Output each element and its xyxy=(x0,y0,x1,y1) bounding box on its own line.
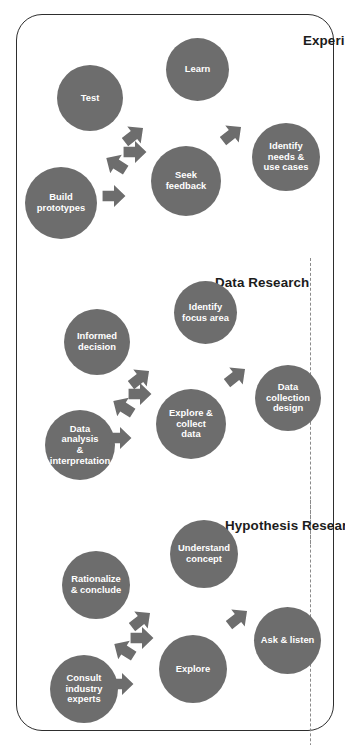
node-data-collection-design[interactable]: Datacollectiondesign xyxy=(255,365,321,431)
node-consult-industry-experts[interactable]: Consultindustryexperts xyxy=(50,655,118,723)
node-learn[interactable]: Learn xyxy=(166,38,229,101)
node-explore[interactable]: Explore xyxy=(159,635,227,703)
node-test[interactable]: Test xyxy=(57,65,123,131)
node-label: Consultindustryexperts xyxy=(52,673,116,705)
arrow-rationalize-to-understand-icon xyxy=(220,600,256,636)
node-label: Ask & listen xyxy=(256,635,319,646)
arrow-identify-to-build-icon xyxy=(101,183,127,209)
section-title-experimental-development: Experimental Development xyxy=(303,33,345,48)
node-explore-collect-data[interactable]: Explore &collectdata xyxy=(156,389,226,459)
node-label: Understandconcept xyxy=(172,543,236,564)
node-label: Identifyneeds &use cases xyxy=(254,141,318,173)
node-label: Rationalize& conclude xyxy=(64,574,128,595)
node-label: Informeddecision xyxy=(66,331,128,352)
node-identify-focus-area[interactable]: Identifyfocus area xyxy=(174,281,237,344)
node-label: Identifyfocus area xyxy=(176,302,235,323)
node-label: Seekfeedback xyxy=(153,170,219,191)
node-label: Test xyxy=(59,93,121,104)
node-seek-feedback[interactable]: Seekfeedback xyxy=(151,146,221,216)
section-title-data-research: Data Research xyxy=(215,275,309,290)
node-understand-concept[interactable]: Understandconcept xyxy=(170,520,238,588)
node-label: Dataanalysis&interpretation xyxy=(47,424,113,466)
section-title-hypothesis-research: Hypothesis Research xyxy=(225,518,345,533)
node-data-analysis-interpretation[interactable]: Dataanalysis&interpretation xyxy=(45,410,115,480)
node-label: Explore &collectdata xyxy=(158,408,224,440)
node-label: Datacollectiondesign xyxy=(257,382,319,414)
arrow-ask-to-explore-icon xyxy=(109,671,135,697)
node-rationalize-conclude[interactable]: Rationalize& conclude xyxy=(62,551,130,619)
node-label: Learn xyxy=(168,64,227,75)
node-label: Buildprototypes xyxy=(27,192,95,213)
node-identify-needs-use-cases[interactable]: Identifyneeds &use cases xyxy=(252,123,320,191)
arrow-learn-to-identify-icon xyxy=(214,116,250,152)
diagram-frame: Experimental Development Identifyneeds &… xyxy=(16,14,334,731)
node-informed-decision[interactable]: Informeddecision xyxy=(64,309,130,375)
diagram-canvas: Experimental Development Identifyneeds &… xyxy=(0,0,345,745)
arrow-design-to-explore-icon xyxy=(107,425,133,451)
node-ask-listen[interactable]: Ask & listen xyxy=(254,607,321,674)
node-build-prototypes[interactable]: Buildprototypes xyxy=(25,167,97,239)
arrow-decision-to-focus-icon xyxy=(218,358,254,394)
node-label: Explore xyxy=(161,664,225,675)
